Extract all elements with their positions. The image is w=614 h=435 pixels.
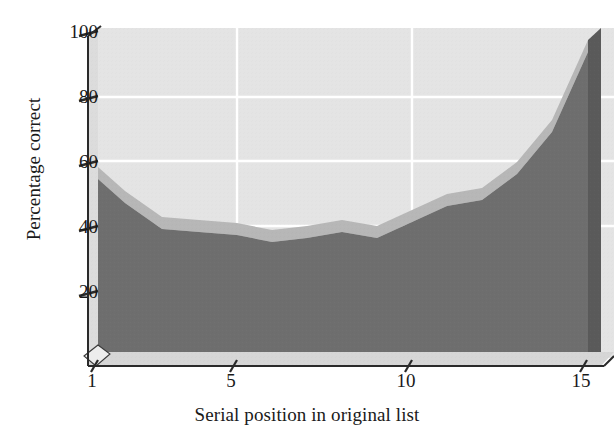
x-axis-title: Serial position in original list — [0, 404, 614, 426]
x-tick-label-10: 10 — [376, 370, 436, 392]
y-axis-title: Percentage correct — [23, 39, 45, 299]
serial-position-chart: 100 80 60 40 20 1 5 10 15 Percentage cor… — [0, 0, 614, 435]
x-tick-label-5: 5 — [201, 370, 261, 392]
x-tick-label-15: 15 — [551, 370, 611, 392]
x-tick-label-1: 1 — [62, 370, 122, 392]
axis-left-wall — [88, 28, 98, 366]
